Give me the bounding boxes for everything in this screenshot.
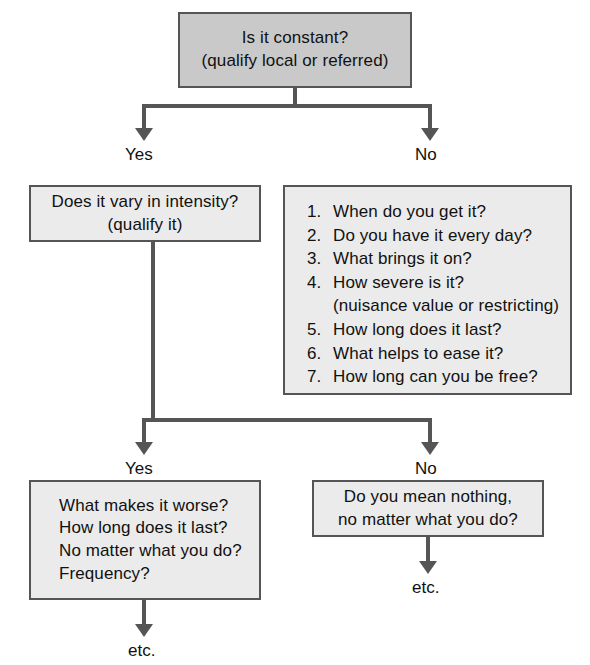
list-item-text: How long does it last? bbox=[333, 319, 502, 342]
list-item: 5. How long does it last? bbox=[307, 319, 560, 342]
list-item: 2. Do you have it every day? bbox=[307, 225, 560, 248]
node-vary-intensity: Does it vary in intensity? (qualify it) bbox=[29, 185, 261, 242]
node-vary-intensity-line2: (qualify it) bbox=[108, 214, 183, 237]
terminal-label-left-etc: etc. bbox=[128, 641, 155, 661]
list-item: 6. What helps to ease it? bbox=[307, 343, 560, 366]
list-item: 3. What brings it on? bbox=[307, 248, 560, 271]
node-yes-detail-line1: What makes it worse? bbox=[59, 495, 228, 518]
arrowhead-left-terminal bbox=[135, 624, 153, 637]
node-root-line2: (qualify local or referred) bbox=[202, 50, 389, 73]
arrowhead-root-no bbox=[421, 128, 439, 141]
node-no-detail: Do you mean nothing, no matter what you … bbox=[312, 480, 544, 537]
list-item: 7. How long can you be free? bbox=[307, 366, 560, 389]
list-item-number: 6. bbox=[307, 343, 333, 366]
list-item-number: 7. bbox=[307, 366, 333, 389]
connector-second-right-branch bbox=[428, 418, 432, 444]
connector-second-left-branch bbox=[142, 418, 146, 444]
list-item-text: Do you have it every day? bbox=[333, 225, 532, 248]
connector-root-right-branch bbox=[428, 104, 432, 130]
list-item-number: 4. bbox=[307, 272, 333, 295]
arrowhead-second-yes bbox=[135, 442, 153, 455]
flowchart-canvas: Is it constant? (qualify local or referr… bbox=[0, 0, 590, 665]
list-item-number: 2. bbox=[307, 225, 333, 248]
edge-label-root-yes: Yes bbox=[125, 145, 153, 165]
node-yes-detail-line4: Frequency? bbox=[59, 563, 150, 586]
list-item-subtext: (nuisance value or restricting) bbox=[307, 295, 559, 318]
arrowhead-second-no bbox=[421, 442, 439, 455]
node-yes-detail: What makes it worse? How long does it la… bbox=[29, 480, 261, 600]
list-item-text: What brings it on? bbox=[333, 248, 472, 271]
list-item-text: What helps to ease it? bbox=[333, 343, 503, 366]
list-item-text: When do you get it? bbox=[333, 201, 486, 224]
node-vary-intensity-line1: Does it vary in intensity? bbox=[52, 191, 239, 214]
node-root-question: Is it constant? (qualify local or referr… bbox=[178, 12, 412, 88]
connector-second-stem bbox=[151, 242, 155, 422]
node-yes-detail-line3: No matter what you do? bbox=[59, 540, 242, 563]
list-item-text: How long can you be free? bbox=[333, 366, 538, 389]
list-item: 4. How severe is it? bbox=[307, 272, 560, 295]
node-yes-detail-line2: How long does it last? bbox=[59, 517, 228, 540]
edge-label-second-yes: Yes bbox=[125, 459, 153, 479]
node-no-detail-line1: Do you mean nothing, bbox=[344, 486, 512, 509]
list-item-text: How severe is it? bbox=[333, 272, 464, 295]
connector-root-left-branch bbox=[142, 104, 146, 130]
edge-label-second-no: No bbox=[415, 459, 437, 479]
node-questions-list: 1. When do you get it? 2. Do you have it… bbox=[283, 185, 572, 395]
list-item: 1. When do you get it? bbox=[307, 201, 560, 224]
connector-root-split-bar bbox=[142, 104, 432, 108]
node-no-detail-line2: no matter what you do? bbox=[338, 509, 518, 532]
connector-second-split-bar bbox=[142, 418, 432, 422]
node-root-line1: Is it constant? bbox=[242, 27, 348, 50]
list-item-number: 3. bbox=[307, 248, 333, 271]
arrowhead-root-yes bbox=[135, 128, 153, 141]
terminal-label-right-etc: etc. bbox=[412, 578, 439, 598]
arrowhead-right-terminal bbox=[419, 561, 437, 574]
edge-label-root-no: No bbox=[415, 145, 437, 165]
list-item-number: 5. bbox=[307, 319, 333, 342]
list-item-number: 1. bbox=[307, 201, 333, 224]
